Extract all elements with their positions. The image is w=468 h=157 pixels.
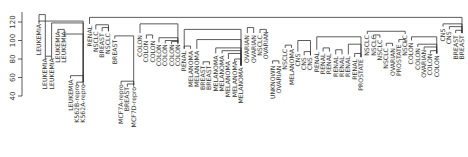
y-tick-label: 120 [9,15,17,28]
dendrogram-branch [90,17,462,33]
dendrogram-branch [184,46,190,49]
dendrogram-branch [172,41,178,44]
dendrogram-branch [336,50,342,55]
leaf-label: BREAST [458,35,465,60]
leaf-label: LEUKEMIA [35,23,42,55]
leaf-label: LEUKEMIA [60,31,67,63]
dendrogram-branch [367,31,405,34]
y-axis: 406080100120 [9,12,22,100]
leaf-label: MELANOMA [237,67,244,104]
dendrogram-branch [127,84,133,87]
leaf-label: PROSTATE [357,59,364,91]
dendrogram-branch [386,43,392,46]
dendrogram-chart: 406080100120 LEUKEMIALEUKEMIALEUKEMIALEU… [0,0,468,157]
leaf-label: OVARIAN [262,31,269,59]
dendrogram-branch [304,52,310,56]
y-tick-label: 60 [9,73,17,82]
leaf-labels: LEUKEMIALEUKEMIALEUKEMIALEUKEMIALEUKEMIA… [35,23,465,127]
dendrogram-branch [323,48,329,52]
leaf-label: BREAST [111,40,118,65]
dendrogram-branch [102,28,108,32]
leaf-label: K562A-repro [79,84,87,123]
y-tick-label: 80 [9,55,17,64]
leaf-label: COLON [433,55,440,77]
dendrogram-branch [273,61,279,64]
dendrogram-branch [285,45,291,48]
dendrogram-branch [430,51,436,54]
y-tick-label: 40 [9,92,17,101]
dendrogram-branch [247,28,253,34]
dendrogram-branch [203,62,209,65]
dendrogram-branch [146,35,152,39]
y-tick-label: 100 [9,34,17,47]
dendrogram-branch [456,30,462,33]
leaf-label: MCF7D-repro [130,87,138,128]
dendrogram-branch [355,53,361,57]
